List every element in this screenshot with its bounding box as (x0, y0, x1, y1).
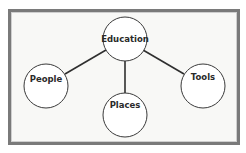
node-tools: Tools (181, 64, 225, 108)
node-education-label: Education (101, 34, 149, 44)
node-people-label: People (30, 74, 63, 84)
concept-map: Education People Places Tools (0, 0, 246, 153)
node-education: Education (101, 17, 149, 61)
node-tools-circle (181, 64, 225, 108)
edge-education-tools (143, 50, 184, 74)
node-places-label: Places (110, 100, 141, 110)
node-tools-label: Tools (191, 72, 215, 82)
edge-education-people (65, 50, 106, 74)
node-people-circle (24, 64, 68, 108)
node-places: Places (103, 93, 147, 137)
node-people: People (24, 64, 68, 108)
